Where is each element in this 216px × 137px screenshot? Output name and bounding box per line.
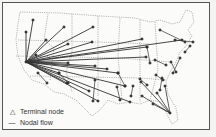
node-dot [149, 62, 151, 64]
node-dot [174, 39, 176, 41]
legend-label: Terminal node [20, 106, 64, 117]
legend-item-terminal-node: △ Terminal node [8, 106, 64, 117]
triangle-icon: △ [8, 106, 16, 117]
node-dot [141, 38, 143, 40]
legend-item-nodal-flow: — Nodal flow [8, 117, 64, 128]
node-dot [159, 29, 161, 31]
node-dot [117, 72, 119, 74]
flow-line [26, 62, 98, 101]
node-dot [146, 46, 148, 48]
node-dot [192, 41, 194, 43]
map-legend: △ Terminal node — Nodal flow [8, 106, 64, 128]
node-dot [46, 82, 48, 84]
node-dot [155, 74, 157, 76]
node-dot [92, 26, 94, 28]
node-dot [67, 43, 69, 45]
node-dot [97, 100, 99, 102]
flow-line [147, 47, 150, 63]
node-dot [175, 71, 177, 73]
node-dot [92, 100, 94, 102]
node-dot [189, 45, 191, 47]
flow-line [155, 60, 166, 65]
node-dot [164, 85, 166, 87]
node-dot [67, 82, 69, 84]
node-dot [170, 61, 172, 63]
node-dot [94, 79, 96, 81]
node-dot [145, 56, 147, 58]
node-dot [94, 65, 96, 67]
node-dot [141, 95, 143, 97]
node-dot [91, 41, 93, 43]
flow-line [26, 62, 125, 86]
flow-line [93, 80, 95, 101]
node-dot [169, 112, 171, 114]
node-dot [146, 84, 148, 86]
node-dot [184, 51, 186, 53]
nodal-flows [25, 19, 194, 114]
node-dot [130, 95, 132, 97]
node-dot [172, 72, 174, 74]
node-dot [156, 92, 158, 94]
node-dot [63, 26, 65, 28]
flow-line [160, 30, 185, 42]
node-dot [35, 54, 37, 56]
node-dot [116, 86, 118, 88]
node-dot [67, 62, 69, 64]
node-dot [25, 31, 27, 33]
node-dot [129, 101, 131, 103]
flow-line [118, 73, 125, 86]
legend-label: Nodal flow [20, 117, 53, 128]
node-dot [159, 89, 161, 91]
node-dot [179, 57, 181, 59]
node-dot [154, 59, 156, 61]
node-dot [119, 99, 121, 101]
node-dot [106, 68, 108, 70]
node-dot [161, 77, 163, 79]
node-dot [45, 39, 47, 41]
node-dot [139, 78, 141, 80]
flow-line [131, 86, 133, 96]
node-dot [58, 72, 60, 74]
node-dot [25, 61, 27, 63]
node-dot [32, 19, 34, 21]
node-dot [88, 90, 90, 92]
node-dot [37, 72, 39, 74]
line-icon: — [8, 117, 16, 128]
flow-line [171, 62, 176, 72]
node-dot [140, 81, 142, 83]
node-dot [165, 64, 167, 66]
node-dot [132, 85, 134, 87]
flow-line [38, 73, 47, 83]
node-dot [124, 85, 126, 87]
